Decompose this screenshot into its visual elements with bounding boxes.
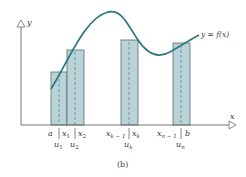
y-axis-arrow-icon — [17, 20, 25, 27]
riemann-sum-diagram: y = f(x) y x a x1 x2 xk − 1 xk xn − 1 b … — [0, 0, 246, 177]
label-b: b — [185, 129, 190, 138]
curve-label: y = f(x) — [200, 30, 229, 39]
label-u1: u1 — [54, 140, 63, 150]
label-un: un — [176, 140, 185, 150]
rect-2 — [67, 50, 84, 125]
label-x1: x1 — [62, 129, 70, 139]
label-xn-1: xn − 1 — [157, 129, 177, 139]
rect-n — [173, 43, 190, 125]
rect-k — [121, 40, 138, 125]
y-axis-label: y — [26, 18, 32, 27]
x-axis-arrow-icon — [229, 121, 236, 129]
label-x2: x2 — [78, 129, 86, 139]
figure-caption: (b) — [117, 160, 128, 169]
x-tick-labels: a x1 x2 xk − 1 xk xn − 1 b — [48, 129, 190, 139]
x-axis-label: x — [230, 112, 235, 121]
label-xk-1: xk − 1 — [106, 129, 125, 139]
label-u2: u2 — [70, 140, 79, 150]
label-uk: uk — [124, 140, 133, 150]
label-a: a — [48, 129, 53, 138]
label-xk: xk — [132, 129, 141, 139]
sample-labels: u1 u2 uk un — [54, 140, 185, 150]
